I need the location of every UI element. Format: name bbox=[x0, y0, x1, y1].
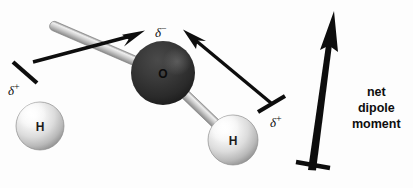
charge-sign-left: + bbox=[14, 81, 20, 92]
charge-sign-oxygen: − bbox=[161, 23, 167, 34]
charge-sign-right: + bbox=[276, 113, 282, 124]
net-dipole-moment-caption: net dipole moment bbox=[352, 84, 401, 132]
oxygen-label: O bbox=[158, 68, 167, 80]
hydrogen-left-label: H bbox=[36, 121, 45, 133]
water-dipole-figure: H O H δ+ δ− δ+ net dipole moment bbox=[0, 0, 413, 188]
hydrogen-right-label: H bbox=[229, 135, 238, 147]
delta-plus-right-label: δ+ bbox=[270, 114, 282, 129]
crossbar-right bbox=[258, 96, 285, 112]
crossbar-net-dipole bbox=[296, 162, 330, 168]
crossbar-left bbox=[13, 62, 37, 83]
delta-plus-left-label: δ+ bbox=[8, 82, 20, 97]
atom-spheres bbox=[16, 41, 258, 165]
bond-dipole-arrow-right bbox=[183, 30, 285, 113]
net-dipole-arrow bbox=[296, 11, 338, 171]
delta-minus-label: δ− bbox=[155, 24, 167, 39]
